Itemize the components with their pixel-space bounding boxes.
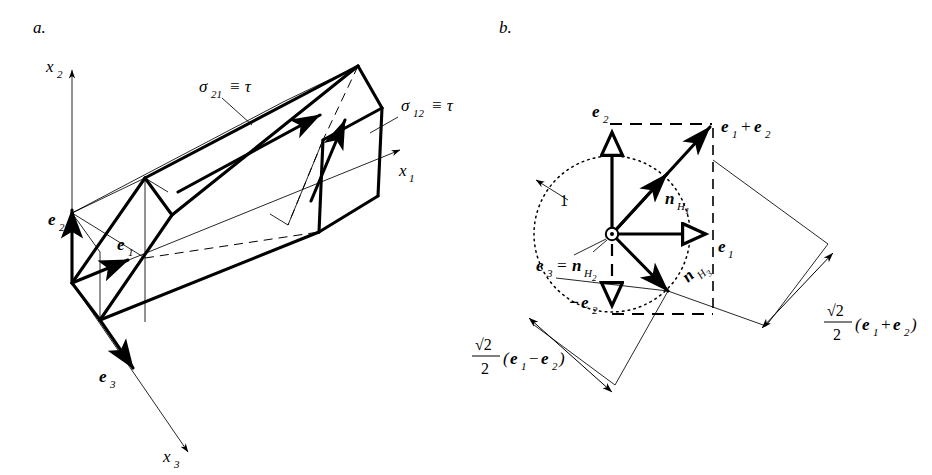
panel-a-letter: a. [33, 18, 46, 37]
stress-sigma12-symbol: σ [401, 96, 410, 115]
prism-edge-cap-right-lower [323, 108, 382, 140]
axis-x1-subscript: 1 [409, 172, 415, 184]
n-H1-subsubscript: 1 [685, 206, 690, 216]
basis-e3-label: e [99, 367, 107, 386]
prism-right-notch-thin [270, 140, 323, 225]
n-H1-label: n [665, 189, 674, 208]
panel-a: a. x 2 x 1 x 3 [33, 18, 454, 470]
axis-x2-label: x [45, 57, 54, 76]
n-H3-label: n [678, 266, 698, 286]
e1-plus-e2-second-sub: 2 [765, 128, 771, 140]
shear-arrow-sigma21 [178, 115, 320, 192]
dim-plus-e2: e [893, 315, 901, 334]
vector-n-H3 [612, 234, 668, 291]
basis-e1-label-b: e [718, 237, 726, 256]
prism-thin-edge-1 [72, 213, 145, 258]
e1-plus-e2-first-sub: 1 [732, 128, 738, 140]
panel-b: b. 1 e 2 e 1 − e 2 e [472, 18, 917, 392]
basis-e3-subscript: 3 [109, 378, 116, 390]
origin-dot [610, 232, 614, 236]
fraction-minus-group: √2 2 [472, 336, 500, 377]
dim-minus-e2: e [541, 349, 549, 368]
e3-eq-nh2-e: e [536, 256, 544, 275]
prism-hidden-edge-long [145, 232, 319, 258]
n-H3-label-group: n H 3 [678, 255, 715, 292]
figure-root: a. x 2 x 1 x 3 [0, 0, 932, 475]
rotated-square-upper-right [668, 160, 828, 326]
fraction-minus-denominator: 2 [481, 360, 489, 377]
minus-e2-subscript: 2 [592, 304, 598, 316]
stress-sigma21-leader [222, 98, 252, 125]
stress-sigma12-leader [370, 117, 398, 133]
stress-sigma21-symbol: σ [199, 77, 208, 96]
basis-e2-label-b: e [592, 102, 600, 121]
basis-e2-label: e [48, 210, 56, 229]
fraction-minus-numerator: √2 [475, 336, 492, 353]
dim-minus-open-paren: ( [503, 349, 510, 368]
basis-e1-label: e [117, 235, 125, 254]
axis-x1-label: x [398, 161, 407, 180]
basis-vector-e3 [100, 320, 133, 368]
basis-e1-subscript-b: 1 [728, 248, 734, 260]
dim-minus-e1-sub: 1 [521, 360, 527, 372]
dim-minus-close-paren: ) [558, 349, 565, 368]
figure-canvas: a. x 2 x 1 x 3 [0, 0, 932, 475]
shear-arrow-sigma12 [311, 120, 345, 201]
e3-eq-nh2-e-sub: 3 [546, 267, 553, 279]
e1-plus-e2-first: e [721, 117, 729, 136]
axis-x3-label: x [162, 447, 171, 466]
dimension-arrow-plus [762, 253, 833, 328]
fraction-plus-group: √2 2 [824, 302, 852, 343]
e1-plus-e2-operator: + [740, 117, 751, 136]
stress-sigma21-subscript: 21 [211, 88, 222, 100]
prism-edge-right-outer-vertical [378, 108, 382, 196]
dim-plus-close-paren: ) [910, 315, 917, 334]
basis-e1-subscript: 1 [128, 246, 134, 258]
basis-e2-subscript-b: 2 [603, 113, 609, 125]
fraction-plus-numerator: √2 [827, 302, 844, 319]
e3-eq-nh2-n-subsub: 2 [592, 273, 597, 283]
prism-near-cap-bottom-left [72, 283, 100, 320]
dim-plus-open-paren: ( [855, 315, 862, 334]
prism-edge-cap-top-right [358, 66, 382, 108]
e3-nh2-leader-2 [574, 239, 606, 255]
dim-plus-e1: e [862, 315, 870, 334]
dim-minus-e1: e [510, 349, 518, 368]
e1-plus-e2-second: e [754, 117, 762, 136]
prism-edge-right-vertical [319, 140, 323, 232]
radius-label: 1 [560, 192, 568, 209]
axis-x2-subscript: 2 [57, 68, 63, 80]
basis-e2-subscript: 2 [59, 221, 65, 233]
axis-x3-subscript: 3 [173, 458, 180, 470]
panel-b-letter: b. [499, 18, 512, 37]
dim-plus-e1-sub: 1 [873, 326, 879, 338]
minus-e2-sign: − [569, 293, 579, 312]
prism-edge-right-bottom [319, 196, 378, 232]
e3-eq-nh2-equals: = [556, 256, 567, 275]
dim-minus-e2-sub: 2 [552, 360, 558, 372]
dim-minus-operator: − [528, 349, 539, 368]
prism-near-cap-right-edge [145, 178, 172, 215]
e3-eq-nh2-n: n [572, 256, 581, 275]
stress-sigma12-subscript: 12 [413, 107, 425, 119]
dim-plus-e2-sub: 2 [904, 326, 910, 338]
minus-e2-label: e [581, 293, 589, 312]
dim-plus-operator: + [880, 315, 891, 334]
vector-n-H1 [612, 174, 667, 234]
stress-sigma21-rest: ≡ τ [229, 77, 252, 96]
stress-sigma12-rest: ≡ τ [431, 96, 454, 115]
fraction-plus-denominator: 2 [833, 326, 841, 343]
